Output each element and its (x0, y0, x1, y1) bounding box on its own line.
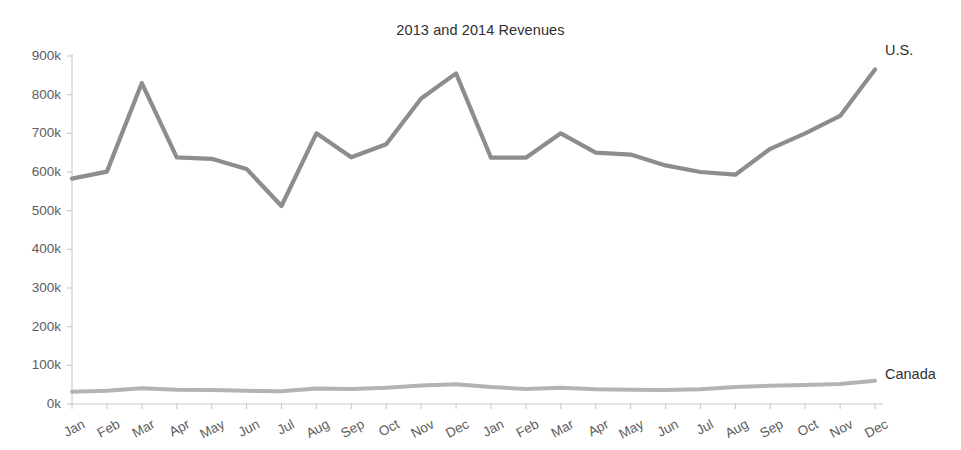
chart-plot-area: 0k100k200k300k400k500k600k700k800k900k J… (0, 0, 961, 450)
y-tick-label: 600k (32, 164, 62, 179)
y-tick-label: 0k (47, 396, 62, 411)
x-tick-label: Jan (61, 416, 87, 439)
y-tick-label: 100k (32, 357, 62, 372)
x-tick-label: Oct (376, 416, 402, 439)
x-tick-label: Jan (480, 416, 506, 439)
x-tick-label: Apr (167, 416, 193, 439)
y-tick-label: 200k (32, 319, 62, 334)
x-tick-label: Oct (795, 416, 821, 439)
x-tick-label: Feb (514, 416, 542, 440)
x-tick-label: Nov (827, 416, 855, 441)
x-tick-label: Feb (95, 416, 123, 440)
x-axis: JanFebMarAprMayJunJulAugSepOctNovDecJanF… (61, 404, 890, 442)
x-tick-label: Jul (694, 416, 716, 437)
y-tick-label: 400k (32, 241, 62, 256)
revenue-line-chart: 2013 and 2014 Revenues 0k100k200k300k400… (0, 0, 961, 450)
x-tick-label: Mar (130, 416, 158, 440)
x-tick-label: Jun (236, 416, 262, 439)
y-tick-label: 800k (32, 87, 62, 102)
x-tick-label: Mar (549, 416, 577, 440)
x-tick-label: May (197, 416, 227, 441)
series-line-canada (72, 381, 875, 392)
series-line-us (72, 70, 875, 207)
x-tick-label: Aug (722, 416, 750, 441)
y-tick-label: 900k (32, 48, 62, 63)
x-tick-label: Jul (275, 416, 297, 437)
series-label-canada: Canada (885, 366, 937, 382)
x-tick-label: Nov (408, 416, 436, 441)
series-label-us: U.S. (885, 42, 913, 58)
x-tick-label: Aug (304, 416, 332, 441)
y-axis: 0k100k200k300k400k500k600k700k800k900k (32, 48, 72, 411)
x-tick-label: Apr (586, 416, 612, 439)
x-tick-label: Sep (338, 416, 366, 441)
y-tick-label: 500k (32, 203, 62, 218)
x-tick-label: Jun (655, 416, 681, 439)
x-tick-label: Sep (757, 416, 785, 441)
x-tick-label: May (616, 416, 646, 441)
series-lines (72, 70, 875, 392)
x-tick-label: Dec (862, 416, 890, 441)
series-end-labels: U.S.Canada (885, 42, 937, 381)
y-tick-label: 700k (32, 125, 62, 140)
x-tick-label: Dec (443, 416, 471, 441)
y-tick-label: 300k (32, 280, 62, 295)
